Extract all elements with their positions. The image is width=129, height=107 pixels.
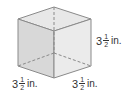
label-unit: in.: [87, 78, 98, 89]
label-whole: 3: [96, 35, 102, 47]
label-denominator: 2: [20, 84, 24, 91]
label-unit: in.: [111, 35, 122, 46]
depth-label: 3 12 in.: [12, 76, 38, 91]
label-whole: 3: [72, 78, 78, 90]
label-unit: in.: [27, 78, 38, 89]
label-numerator: 1: [79, 76, 85, 84]
label-numerator: 1: [103, 33, 109, 41]
label-fraction: 12: [19, 76, 25, 91]
label-denominator: 2: [104, 41, 108, 48]
label-whole: 3: [12, 78, 18, 90]
width-label: 3 12 in.: [72, 76, 98, 91]
height-label: 3 12 in.: [96, 33, 122, 48]
label-numerator: 1: [19, 76, 25, 84]
label-fraction: 12: [79, 76, 85, 91]
label-denominator: 2: [80, 84, 84, 91]
label-fraction: 12: [103, 33, 109, 48]
